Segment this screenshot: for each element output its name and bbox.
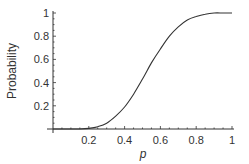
x-tick-label: 0.6 — [153, 134, 168, 146]
x-tick-label: 0.8 — [189, 134, 204, 146]
probability-curve — [53, 13, 232, 129]
x-tick-label: 1 — [229, 134, 235, 146]
y-tick-label: 1 — [43, 7, 49, 19]
probability-chart: 0.20.40.60.810.20.40.60.81 p Probability — [0, 0, 249, 164]
y-tick-label: 0.4 — [34, 77, 49, 89]
axes: 0.20.40.60.810.20.40.60.81 — [34, 7, 235, 146]
x-axis-label: p — [139, 147, 147, 161]
x-tick-label: 0.4 — [117, 134, 132, 146]
y-axis-label: Probability — [5, 43, 19, 99]
y-tick-label: 0.6 — [34, 53, 49, 65]
y-tick-label: 0.8 — [34, 30, 49, 42]
x-tick-label: 0.2 — [81, 134, 96, 146]
y-tick-label: 0.2 — [34, 100, 49, 112]
curve-layer — [53, 13, 232, 129]
